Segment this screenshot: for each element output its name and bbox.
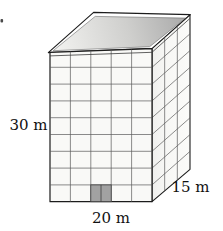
figure-canvas: 30 m 20 m 15 m (0, 0, 223, 231)
depth-dimension-label: 15 m (172, 178, 210, 196)
front-face (50, 49, 152, 202)
entrance-door (91, 185, 111, 202)
width-dimension-label: 20 m (92, 209, 130, 227)
stray-mark (1, 19, 4, 23)
height-dimension-label: 30 m (9, 116, 47, 134)
building-figure: 30 m 20 m 15 m (0, 0, 223, 231)
